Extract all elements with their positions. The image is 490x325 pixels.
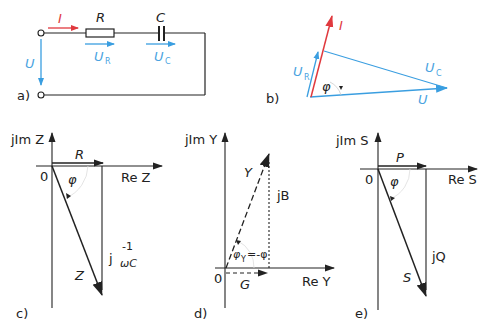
c-y-axis-label: jIm Z	[10, 132, 44, 147]
diagram-canvas: I R C U R U C U a) I U R U C U φ b) jIm …	[0, 0, 490, 325]
d-b-label: jB	[276, 188, 290, 203]
e-s-vector	[378, 169, 426, 296]
d-x-axis-label: Re Y	[302, 274, 331, 289]
c-imag-denominator: ωC	[120, 257, 137, 270]
resistor-symbol	[86, 29, 114, 37]
c-r-label: R	[75, 147, 84, 162]
e-angle-label: φ	[390, 174, 399, 189]
current-label: I	[58, 11, 62, 26]
c-imag-prefix: j	[108, 251, 113, 266]
angle-arc	[330, 82, 341, 95]
c-imag-numerator: -1	[122, 240, 133, 253]
voltage-r-sub: R	[304, 73, 310, 82]
e-q-label: jQ	[431, 249, 446, 264]
panel-e-label: e)	[355, 306, 368, 321]
panel-e-power: jIm S Re S 0 P φ jQ S e)	[335, 133, 477, 321]
voltage-r-label: U	[293, 64, 303, 79]
d-angle-eq: =-φ	[247, 248, 267, 261]
d-y-axis-label: jIm Y	[184, 132, 217, 147]
d-y-label: Y	[244, 165, 253, 180]
voltage-c-label: U	[425, 60, 435, 75]
panel-d-label: d)	[194, 306, 207, 321]
voltage-c-label: U	[154, 49, 164, 64]
e-s-label: S	[403, 270, 411, 285]
voltage-r-sub: R	[105, 57, 111, 66]
voltage-c-sub: C	[165, 57, 171, 66]
e-p-label: P	[396, 150, 404, 165]
d-angle-sub: Y	[240, 255, 246, 264]
c-angle-label: φ	[68, 172, 77, 187]
voltage-u-label: U	[418, 92, 428, 107]
panel-a-label: a)	[17, 88, 30, 103]
panel-c-label: c)	[16, 306, 28, 321]
panel-b-label: b)	[266, 91, 279, 106]
voltage-r-label: U	[94, 49, 104, 64]
panel-d-admittance: jIm Y Re Y 0 G jB Y φ Y =-φ d)	[184, 132, 334, 321]
panel-c-impedance: jIm Z Re Z 0 R φ j -1 ωC Z c)	[10, 132, 162, 321]
current-label: I	[339, 18, 343, 33]
c-z-label: Z	[74, 268, 85, 283]
panel-a-circuit: I R C U R U C U a)	[17, 10, 205, 103]
angle-label: φ	[322, 79, 331, 94]
d-g-label: G	[240, 277, 250, 292]
terminal-bottom	[38, 92, 44, 98]
c-x-axis-label: Re Z	[121, 170, 151, 185]
angle-arrowhead-icon	[339, 86, 343, 90]
terminal-top	[38, 30, 44, 36]
panel-b-phasor: I U R U C U φ b)	[266, 16, 447, 107]
e-x-axis-label: Re S	[448, 172, 477, 187]
d-angle-label: φ	[233, 248, 241, 261]
capacitor-label: C	[156, 10, 166, 25]
e-origin-label: 0	[365, 172, 373, 187]
c-origin-label: 0	[40, 169, 48, 184]
voltage-u-label: U	[25, 56, 35, 71]
resistor-label: R	[96, 10, 105, 25]
voltage-c-sub: C	[436, 69, 442, 78]
e-y-axis-label: jIm S	[335, 133, 369, 148]
d-origin-label: 0	[214, 271, 222, 286]
